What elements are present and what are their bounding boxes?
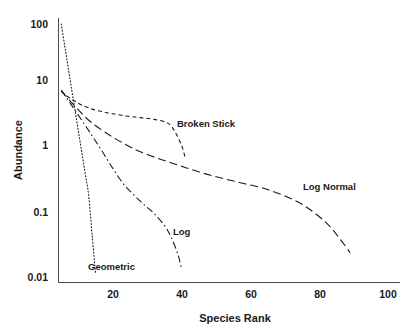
y-tick-label-0.1: 0.1 [33, 206, 48, 218]
y-tick-label-100: 100 [30, 18, 48, 30]
x-tick-label-80: 80 [314, 288, 326, 300]
x-tick-label-20: 20 [107, 288, 119, 300]
series-annotation-log: Log [173, 226, 191, 237]
x-tick-label-100: 100 [379, 288, 397, 300]
x-axis-title: Species Rank [199, 312, 271, 324]
curve-geometric [61, 24, 95, 274]
curve-log-normal [61, 91, 350, 253]
chart-curves [61, 24, 350, 274]
series-annotation-broken-stick: Broken Stick [177, 118, 236, 129]
series-annotation-geometric: Geometric [88, 261, 135, 272]
y-tick-label-1: 1 [42, 139, 48, 151]
species-rank-abundance-chart: 100 10 1 0.1 0.01 20 40 60 80 100 Abunda… [0, 0, 412, 336]
curve-broken-stick [61, 91, 185, 157]
y-axis-title: Abundance [12, 120, 24, 180]
y-tick-label-0.01: 0.01 [28, 271, 49, 283]
chart-page: 100 10 1 0.1 0.01 20 40 60 80 100 Abunda… [0, 0, 412, 336]
y-tick-label-10: 10 [36, 74, 48, 86]
curve-log [61, 90, 181, 270]
x-tick-label-60: 60 [245, 288, 257, 300]
x-tick-label-40: 40 [176, 288, 188, 300]
chart-axes [59, 18, 401, 283]
series-annotation-log-normal: Log Normal [303, 181, 356, 192]
